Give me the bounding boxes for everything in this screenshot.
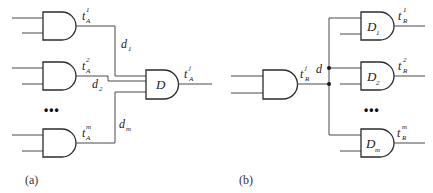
svg-text:1: 1 <box>86 6 90 14</box>
svg-text:t: t <box>397 126 401 140</box>
label-ta2: t 2 A <box>82 56 91 75</box>
svg-text:t: t <box>300 67 304 81</box>
svg-text:m: m <box>126 125 131 133</box>
svg-text:m: m <box>86 123 91 131</box>
gate-d-label: D <box>155 77 166 92</box>
svg-text:j: j <box>304 64 307 72</box>
junction-dot <box>327 82 331 86</box>
and-gate-am <box>12 129 76 157</box>
and-gate-a2 <box>12 62 76 90</box>
svg-text:1: 1 <box>376 29 380 37</box>
svg-text:R: R <box>304 75 310 83</box>
label-ta1: t 1 A <box>82 6 91 25</box>
svg-text:2: 2 <box>376 79 380 87</box>
svg-text:A: A <box>85 67 91 75</box>
ellipsis: ••• <box>44 103 60 117</box>
svg-text:1: 1 <box>128 45 132 53</box>
and-gate-icon <box>263 70 298 99</box>
diagram-b: D 1 D 2 D m t j R d t 1 R <box>231 6 425 187</box>
label-tam: t m A <box>82 123 91 142</box>
caption-a: (a) <box>25 173 38 187</box>
svg-text:R: R <box>402 67 408 75</box>
label-taj: t j A <box>184 64 194 83</box>
svg-text:A: A <box>85 134 91 142</box>
svg-text:1: 1 <box>403 6 407 14</box>
and-gate-source <box>231 70 329 99</box>
svg-text:2: 2 <box>403 56 407 64</box>
wire-d2 <box>76 76 146 81</box>
svg-text:d: d <box>92 77 99 91</box>
svg-text:d: d <box>121 37 128 51</box>
svg-text:2: 2 <box>86 56 90 64</box>
and-gate-a1 <box>12 12 76 40</box>
svg-text:t: t <box>184 67 188 81</box>
label-tr1: t 1 R <box>398 6 408 25</box>
and-gate-d: D <box>146 70 212 99</box>
and-gate-icon <box>43 62 76 90</box>
label-tr2: t 2 R <box>398 56 408 75</box>
svg-text:t: t <box>398 9 402 23</box>
svg-text:m: m <box>402 123 407 131</box>
and-gate-icon <box>43 129 76 157</box>
junction-dot <box>327 66 331 70</box>
label-d1: d 1 <box>121 37 132 53</box>
svg-text:R: R <box>401 134 407 142</box>
svg-text:2: 2 <box>99 85 103 93</box>
svg-text:t: t <box>398 59 402 73</box>
label-d2: d 2 <box>92 77 103 93</box>
label-trj: t j R <box>300 64 310 83</box>
svg-text:j: j <box>188 64 191 72</box>
caption-b: (b) <box>239 173 253 187</box>
svg-text:d: d <box>119 117 126 131</box>
svg-text:A: A <box>188 75 194 83</box>
and-gate-dm: D m <box>340 129 425 157</box>
label-dm: d m <box>119 117 131 133</box>
and-gate-d1: D 1 <box>340 12 425 40</box>
svg-text:R: R <box>402 17 408 25</box>
diagram-a: D t 1 A t 2 A t m A t j A d 1 d <box>12 6 212 187</box>
bus-label-d: d <box>316 62 323 76</box>
and-gate-d2: D 2 <box>340 62 425 90</box>
ellipsis: ••• <box>364 103 380 117</box>
and-gate-icon <box>43 12 76 40</box>
diagram-canvas: D t 1 A t 2 A t m A t j A d 1 d <box>0 0 433 193</box>
label-trm: t m R <box>397 123 407 142</box>
svg-text:A: A <box>85 17 91 25</box>
svg-text:m: m <box>375 146 380 154</box>
